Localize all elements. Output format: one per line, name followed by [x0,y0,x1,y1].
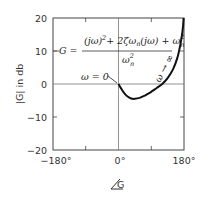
y-tick-20: 20 [35,13,47,24]
eq-lhs: G = [59,45,78,56]
x-axis-label: G [111,179,124,190]
x-tick-180: 180° [173,155,196,166]
annotation-omega-zero-arrow [108,76,117,83]
y-tick-10: 10 [35,46,47,57]
x-tick-0: 0° [115,155,126,166]
annotation-omega-zero: ω = 0 [81,71,109,82]
x-axis-symbol: G [117,179,124,190]
y-axis-label: |G| in db [14,64,25,105]
eq-denominator: ω2n [122,52,134,68]
y-tick-0: 0 [41,79,47,90]
x-tick-minus-180: −180° [41,155,72,166]
nichols-chart: 20 10 0 −10 −20 −180° 0° 180° |G| in db … [0,0,210,199]
eq-numerator: (jω)2+ 2ζωn(jω) + ω2n [84,33,185,49]
annotation-omega-infinity: ω → ∞ [152,53,176,84]
y-tick-minus-10: −10 [27,112,47,123]
